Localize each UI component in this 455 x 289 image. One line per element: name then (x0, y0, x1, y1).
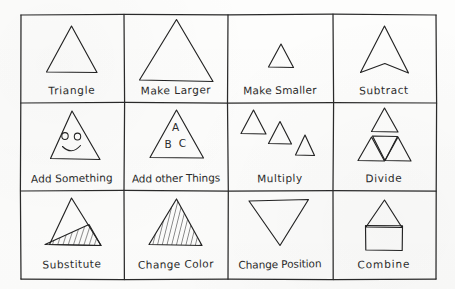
multiply-triangle-2-icon (269, 122, 292, 145)
cell-add-other-things[interactable]: A B C Add other Things (132, 110, 220, 185)
cell-combine[interactable]: Combine (357, 200, 410, 270)
combine-triangle-icon (366, 200, 402, 228)
cell-label-multiply: Multiply (257, 172, 303, 185)
cell-label-add-something: Add Something (31, 171, 113, 184)
inverted-triangle-icon (249, 200, 309, 246)
diagram-sheet: Triangle Make Larger Make Smaller Subtra… (0, 0, 455, 289)
cell-label-combine: Combine (357, 258, 410, 271)
cell-label-make-smaller: Make Smaller (243, 84, 317, 97)
cell-substitute[interactable]: Substitute (42, 198, 101, 271)
cell-divide[interactable]: Divide (358, 108, 411, 184)
cell-label-change-position: Change Position (238, 257, 321, 271)
smiley-right-eye-icon (74, 133, 80, 140)
letter-a-label: A (172, 121, 180, 133)
cell-subtract[interactable]: Subtract (359, 26, 409, 96)
cell-make-smaller[interactable]: Make Smaller (243, 44, 317, 96)
cell-label-divide: Divide (365, 172, 402, 185)
plain-upward-triangle-icon (47, 26, 98, 73)
smiley-mouth-icon (63, 146, 81, 151)
divide-right-triangle-icon (385, 137, 411, 161)
triangle-transformation-diagram: Triangle Make Larger Make Smaller Subtra… (0, 0, 455, 289)
large-upward-triangle-icon (140, 20, 214, 82)
triangle-with-letters-icon (150, 110, 204, 158)
divide-top-triangle-icon (372, 108, 399, 132)
cell-label-substitute: Substitute (42, 257, 101, 270)
letter-c-label: C (179, 137, 186, 149)
smiley-left-eye-icon (62, 133, 68, 140)
cell-make-larger[interactable]: Make Larger (140, 20, 214, 97)
cell-label-triangle: Triangle (47, 84, 95, 97)
fully-hatched-triangle-icon (149, 199, 202, 246)
multiply-triangle-1-icon (241, 110, 266, 134)
cell-label-change-color: Change Color (138, 257, 214, 270)
combine-square-icon (366, 226, 403, 251)
letter-b-label: B (164, 138, 171, 150)
cell-label-add-other-things: Add other Things (132, 171, 220, 184)
divide-middle-inverted-triangle-icon (373, 136, 398, 161)
cell-add-something[interactable]: Add Something (31, 111, 113, 185)
cell-change-position[interactable]: Change Position (238, 200, 321, 271)
small-upward-triangle-icon (269, 44, 294, 68)
divide-left-triangle-icon (358, 137, 385, 161)
triangle-with-notch-chevron-icon (361, 26, 409, 73)
cell-triangle[interactable]: Triangle (47, 26, 98, 97)
triangle-with-smiley-face-icon (51, 111, 101, 160)
cell-multiply[interactable]: Multiply (241, 110, 315, 184)
cell-label-subtract: Subtract (359, 84, 409, 97)
multiply-triangle-3-icon (296, 135, 315, 156)
cell-label-make-larger: Make Larger (141, 83, 212, 96)
cell-change-color[interactable]: Change Color (138, 199, 214, 271)
